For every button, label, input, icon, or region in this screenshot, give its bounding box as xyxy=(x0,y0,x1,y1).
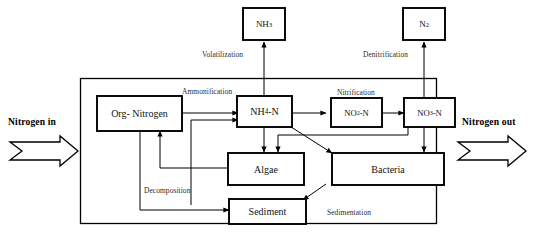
node-box-nh4-n xyxy=(237,96,292,127)
process-label-decomposition: Decomposition xyxy=(144,186,190,195)
nitrogen-cycle-diagram: NH3 N2 Org- Nitrogen NH4-N NO2-N NO3-N A… xyxy=(0,0,538,241)
diagram-connectors xyxy=(0,0,538,241)
node-box-algae xyxy=(228,153,304,185)
inflow-label: Nitrogen in xyxy=(8,116,56,127)
node-box-nh3 xyxy=(243,8,285,40)
process-label-denitrification: Denitrification xyxy=(363,50,408,59)
outflow-block-arrow xyxy=(458,136,526,166)
node-box-org-nitrogen xyxy=(97,96,182,131)
process-label-ammonification: Ammonification xyxy=(182,87,232,96)
node-box-bacteria xyxy=(332,153,444,185)
node-box-sediment xyxy=(229,199,306,224)
node-box-n2 xyxy=(403,8,445,40)
node-box-no2-n xyxy=(331,98,382,127)
process-label-volatilization: Volatilization xyxy=(202,50,243,59)
node-box-no3-n xyxy=(404,98,455,127)
edge-algae-to-org xyxy=(160,131,228,168)
inflow-block-arrow xyxy=(10,136,78,166)
process-label-nitrification: Nitrification xyxy=(337,88,375,97)
edge-bacteria-to-sediment xyxy=(303,184,326,200)
edge-nh4-to-bacteria xyxy=(291,127,332,153)
edge-org-to-sediment xyxy=(140,131,229,210)
outflow-label: Nitrogen out xyxy=(462,116,516,127)
process-label-sedimentation: Sedimentation xyxy=(327,208,371,217)
